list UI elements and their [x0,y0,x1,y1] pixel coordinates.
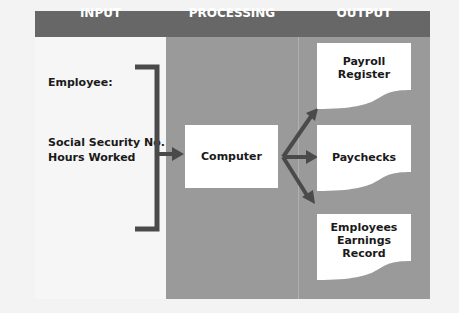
document-paychecks: Paychecks [317,125,411,191]
document-employees-earnings-record: Employees Earnings Record [317,214,411,280]
arrow-to-computer-icon [172,147,184,161]
document-payroll-register: Payroll Register [317,43,411,109]
input-bracket-icon [135,67,157,229]
computer-box: Computer [185,125,278,188]
